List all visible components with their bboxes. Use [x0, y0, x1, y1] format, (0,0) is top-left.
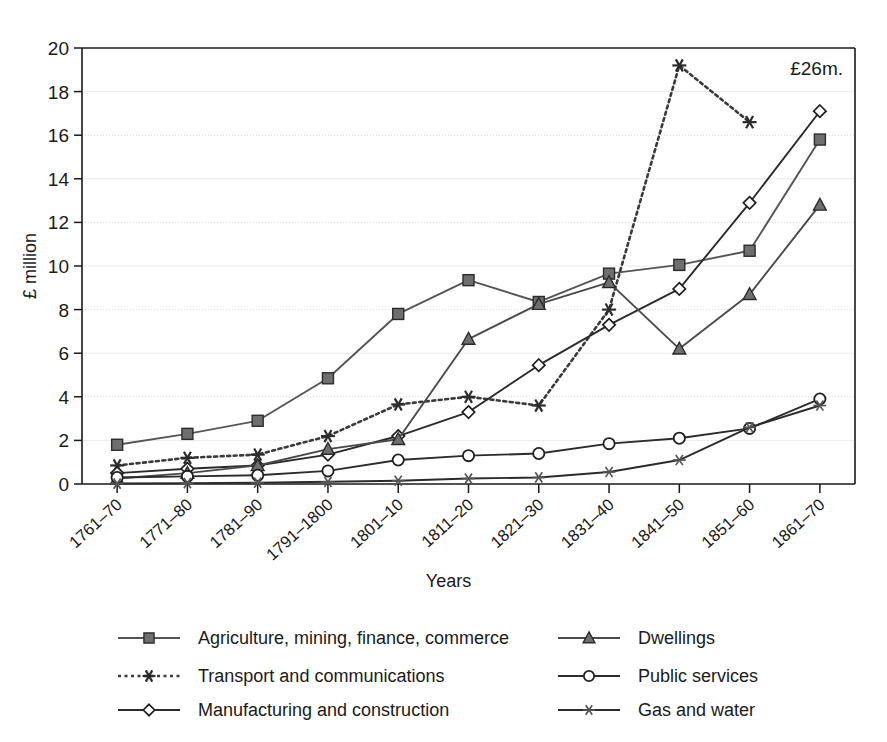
legend-marker-1: [143, 670, 156, 681]
data-point-4-2: [252, 470, 263, 481]
legend-item-1[interactable]: Transport and communications: [118, 666, 444, 686]
y-axis-title: £ million: [20, 233, 40, 299]
x-tick-label-7: 1831–40: [557, 495, 617, 551]
series-1: [110, 59, 756, 471]
x-tick-label-1: 1771–80: [136, 495, 196, 551]
chart-page: 02468101214161820£ million1761–701771–80…: [0, 0, 887, 742]
data-point-4-0: [112, 472, 123, 483]
y-tick-label-0: 0: [58, 474, 69, 495]
y-tick-label-8: 8: [58, 300, 69, 321]
y-tick-label-12: 12: [48, 212, 69, 233]
data-point-0-5: [463, 275, 474, 286]
y-axis-ticks: 02468101214161820: [48, 38, 82, 495]
x-tick-label-5: 1811–20: [418, 495, 477, 551]
chart-canvas: 02468101214161820£ million1761–701771–80…: [0, 0, 887, 742]
data-point-4-6: [533, 448, 544, 459]
y-tick-label-14: 14: [48, 169, 70, 190]
x-tick-label-3: 1791–1800: [263, 495, 336, 564]
data-point-1-9: [743, 116, 757, 128]
legend-label-1: Transport and communications: [198, 666, 444, 686]
gridlines: [82, 48, 855, 440]
series-group: [110, 59, 826, 488]
x-tick-label-10: 1861–70: [768, 495, 828, 551]
data-point-0-0: [112, 439, 123, 450]
legend-item-3[interactable]: Dwellings: [558, 628, 715, 648]
x-tick-label-9: 1851–60: [698, 495, 758, 551]
data-point-4-10: [814, 393, 825, 404]
series-line-1: [117, 65, 749, 465]
y-tick-label-10: 10: [48, 256, 69, 277]
legend-item-2[interactable]: Manufacturing and construction: [118, 700, 449, 720]
y-tick-label-6: 6: [58, 343, 69, 364]
data-point-2-5: [462, 406, 474, 418]
x-tick-label-0: 1761–70: [65, 495, 125, 551]
data-point-0-3: [322, 373, 333, 384]
x-axis-ticks: 1761–701771–801781–901791–18001801–10181…: [65, 484, 828, 563]
data-point-2-6: [533, 359, 545, 371]
data-point-0-9: [744, 245, 755, 256]
series-0: [112, 134, 826, 450]
data-point-1-5: [462, 391, 476, 403]
data-point-3-10: [813, 198, 826, 210]
legend-marker-5: [583, 705, 595, 714]
data-point-0-2: [252, 415, 263, 426]
data-point-5-5: [462, 473, 475, 483]
data-point-4-5: [463, 450, 474, 461]
series-2: [111, 105, 826, 479]
data-point-0-8: [674, 259, 685, 270]
legend: Agriculture, mining, finance, commerceTr…: [118, 628, 758, 720]
y-tick-label-20: 20: [48, 38, 69, 59]
legend-label-3: Dwellings: [638, 628, 715, 648]
value-annotation: £26m.: [790, 58, 843, 79]
data-point-4-3: [322, 465, 333, 476]
x-tick-label-6: 1821–30: [487, 495, 547, 551]
data-point-1-4: [391, 398, 405, 410]
data-point-4-7: [603, 438, 614, 449]
legend-marker-4: [584, 671, 594, 681]
data-point-0-10: [814, 134, 825, 145]
data-point-2-7: [603, 319, 615, 331]
data-point-1-6: [532, 399, 546, 411]
legend-label-0: Agriculture, mining, finance, commerce: [198, 628, 509, 648]
data-point-0-1: [182, 428, 193, 439]
legend-item-4[interactable]: Public services: [558, 666, 758, 686]
data-point-0-4: [393, 308, 404, 319]
data-point-3-5: [462, 332, 475, 344]
data-point-5-6: [532, 472, 545, 482]
x-tick-label-8: 1841–50: [628, 495, 688, 551]
y-tick-label-2: 2: [58, 430, 69, 451]
data-point-4-4: [393, 454, 404, 465]
line-chart: 02468101214161820£ million1761–701771–80…: [0, 0, 887, 742]
y-tick-label-4: 4: [58, 387, 69, 408]
x-tick-label-2: 1781–90: [206, 495, 266, 551]
x-tick-label-4: 1801–10: [346, 495, 406, 551]
legend-item-5[interactable]: Gas and water: [558, 700, 755, 720]
data-point-4-8: [674, 433, 685, 444]
legend-label-5: Gas and water: [638, 700, 755, 720]
legend-label-2: Manufacturing and construction: [198, 700, 449, 720]
legend-marker-0: [144, 633, 154, 643]
data-point-4-1: [182, 471, 193, 482]
data-point-5-8: [673, 455, 686, 465]
x-axis-title: Years: [426, 571, 471, 591]
data-point-5-7: [603, 467, 616, 477]
y-tick-label-18: 18: [48, 82, 69, 103]
y-tick-label-16: 16: [48, 125, 69, 146]
legend-marker-2: [143, 704, 154, 715]
legend-label-4: Public services: [638, 666, 758, 686]
legend-item-0[interactable]: Agriculture, mining, finance, commerce: [118, 628, 509, 648]
